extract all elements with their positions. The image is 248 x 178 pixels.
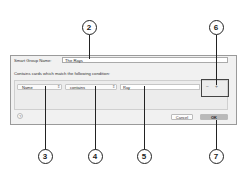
leader-line [216, 120, 218, 150]
callout-3: 3 [38, 149, 53, 164]
callout-5: 5 [137, 149, 152, 164]
field-popup-value: Name [22, 85, 33, 90]
operator-popup-value: contains [70, 85, 85, 90]
ok-button[interactable]: OK [200, 114, 228, 120]
callout-2: 2 [82, 20, 97, 35]
callout-4: 4 [88, 149, 103, 164]
callout-7: 7 [209, 149, 224, 164]
callout-6: 6 [209, 20, 224, 35]
cancel-button[interactable]: Cancel [171, 114, 193, 120]
popup-arrows-icon: ⇕ [57, 85, 60, 90]
leader-line [216, 35, 218, 85]
condition-instructions: Contains cards which match the following… [14, 71, 110, 76]
field-popup[interactable]: Name ⇕ [17, 84, 62, 90]
criteria-value-field[interactable]: Ray [120, 84, 200, 90]
help-button[interactable]: ? [17, 113, 23, 119]
leader-line [144, 86, 146, 150]
leader-line [45, 86, 47, 150]
leader-line [89, 35, 91, 59]
smart-group-name-field[interactable]: The Rays [62, 57, 228, 63]
popup-arrows-icon: ⇕ [112, 85, 115, 90]
smart-group-name-label: Smart Group Name: [14, 58, 51, 63]
leader-line [95, 86, 97, 150]
operator-popup[interactable]: contains ⇕ [65, 84, 117, 90]
